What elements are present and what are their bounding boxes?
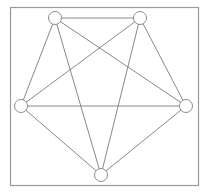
edge-n1-n4 [55,18,186,106]
edge-n2-n3 [21,18,140,106]
edge-n2-n4 [140,18,186,106]
edge-n3-n5 [21,106,101,175]
edge-n1-n3 [21,18,55,106]
edge-n2-n5 [101,18,140,175]
edge-group [21,18,186,175]
graph-node-n3 [15,100,28,113]
graph-node-n4 [180,100,193,113]
graph-node-n5 [95,169,108,182]
diagram-frame [11,8,199,186]
graph-diagram [0,0,208,195]
graph-node-n1 [49,12,62,25]
node-group [15,12,193,182]
graph-node-n2 [134,12,147,25]
edge-n1-n5 [55,18,101,175]
edge-n4-n5 [101,106,186,175]
